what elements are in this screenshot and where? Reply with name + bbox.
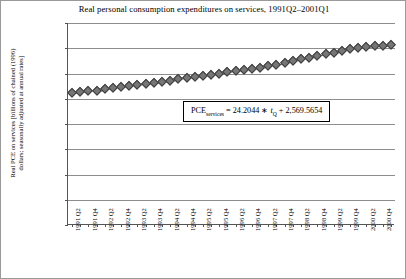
y-axis-tick-mark: [65, 23, 68, 24]
chart-title: Real personal consumption expenditures o…: [1, 4, 406, 14]
equation-operator: = 24.2044 ∗: [224, 106, 270, 115]
x-axis-tick-mark: [236, 224, 237, 227]
x-axis-tick-label: 1997 Q4: [287, 208, 294, 231]
x-axis-tick-mark: [285, 224, 286, 227]
x-axis-tick-label: 1993 Q4: [156, 208, 163, 231]
x-axis-tick-label: 1998 Q2: [303, 208, 310, 231]
x-axis-tick-mark: [350, 224, 351, 227]
x-axis-tick-label: 1995 Q2: [205, 208, 212, 231]
x-axis-tick-mark: [203, 224, 204, 227]
y-axis-tick-mark: [65, 149, 68, 150]
gridline: [68, 175, 395, 176]
x-axis-tick-label: 1992 Q2: [107, 208, 114, 231]
x-axis-tick-mark: [301, 224, 302, 227]
y-axis-tick-mark: [65, 48, 68, 49]
x-axis-tick-mark: [170, 224, 171, 227]
x-axis-tick-mark: [252, 224, 253, 227]
x-axis-tick-label: 1991 Q2: [74, 208, 81, 231]
x-axis-tick-mark: [105, 224, 106, 227]
y-axis-tick-mark: [65, 225, 68, 226]
gridline: [68, 200, 395, 201]
y-axis-tick-mark: [65, 124, 68, 125]
x-axis-tick-label: 2000 Q4: [385, 208, 392, 231]
y-axis-tick-mark: [65, 200, 68, 201]
x-axis-tick-mark: [154, 224, 155, 227]
gridline: [68, 23, 395, 24]
gridline: [68, 124, 395, 125]
y-axis-label: Real PCE on services [billions of chaine…: [9, 13, 25, 213]
gridline: [68, 74, 395, 75]
x-axis-tick-mark: [334, 224, 335, 227]
x-axis-tick-mark: [187, 224, 188, 227]
gridline: [68, 149, 395, 150]
y-axis-tick-mark: [65, 74, 68, 75]
x-axis-tick-label: 1996 Q4: [254, 208, 261, 231]
x-axis-tick-mark: [317, 224, 318, 227]
equation-intercept: + 2,569.5654: [277, 106, 323, 115]
x-axis-tick-mark: [366, 224, 367, 227]
plot-area: 0.0500.01,000.01,500.02,000.02,500.03,00…: [67, 23, 394, 225]
x-axis-tick-label: 1993 Q2: [140, 208, 147, 231]
regression-equation-annotation: PCEservices = 24.2044 ∗ tQ + 2,569.5654: [183, 101, 330, 122]
x-axis-tick-mark: [88, 224, 89, 227]
equation-lhs: PCE: [191, 106, 206, 115]
x-axis-tick-mark: [268, 224, 269, 227]
x-axis-tick-label: 1996 Q2: [238, 208, 245, 231]
y-axis-tick-mark: [65, 175, 68, 176]
equation-lhs-subscript: services: [206, 111, 224, 117]
y-axis-label-line2: dollars; seasonally adjusted at annual r…: [17, 13, 25, 213]
gridline: [68, 99, 395, 100]
y-axis-label-line1: Real PCE on services [billions of chaine…: [9, 13, 17, 213]
x-axis-tick-label: 1994 Q2: [173, 208, 180, 231]
chart-figure: Real personal consumption expenditures o…: [0, 0, 406, 279]
x-axis-tick-label: 2000 Q2: [369, 208, 376, 231]
x-axis-tick-label: 1991 Q4: [91, 208, 98, 231]
x-axis-tick-mark: [219, 224, 220, 227]
x-axis-tick-mark: [137, 224, 138, 227]
x-axis-tick-label: 1994 Q4: [189, 208, 196, 231]
x-axis-tick-label: 1999 Q4: [352, 208, 359, 231]
x-axis-tick-label: 1995 Q4: [222, 208, 229, 231]
y-axis-tick-mark: [65, 99, 68, 100]
x-axis-tick-mark: [383, 224, 384, 227]
x-axis-tick-label: 1999 Q2: [336, 208, 343, 231]
x-axis-tick-label: 1998 Q4: [320, 208, 327, 231]
x-axis-tick-label: 1997 Q2: [271, 208, 278, 231]
x-axis-tick-mark: [121, 224, 122, 227]
x-axis-tick-label: 1992 Q4: [124, 208, 131, 231]
x-axis-tick-mark: [72, 224, 73, 227]
